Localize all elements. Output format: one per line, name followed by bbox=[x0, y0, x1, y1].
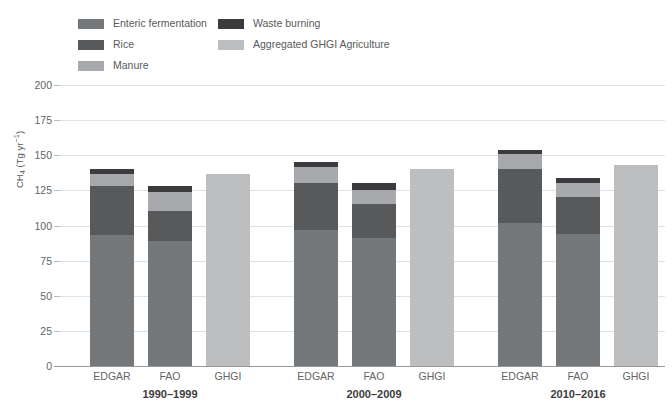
bar-segment-aggregated-ghgi-agriculture bbox=[206, 174, 250, 366]
bar-segment-rice bbox=[90, 186, 134, 235]
bar-segment-aggregated-ghgi-agriculture bbox=[614, 165, 658, 366]
x-axis-labels: EDGARFAOGHGIEDGARFAOGHGIEDGARFAOGHGI1990… bbox=[0, 370, 672, 415]
gridline bbox=[60, 85, 665, 86]
y-axis-tick-label: 175 bbox=[14, 114, 52, 126]
bar-segment-aggregated-ghgi-agriculture bbox=[410, 169, 454, 366]
bar-segment-manure bbox=[498, 154, 542, 169]
y-axis-tick-mark bbox=[54, 226, 60, 227]
bar-segment-enteric-fermentation bbox=[90, 235, 134, 366]
x-axis-baseline bbox=[60, 366, 665, 367]
bar-segment-rice bbox=[148, 211, 192, 241]
bar-segment-enteric-fermentation bbox=[294, 230, 338, 366]
bar-edgar-1[interactable] bbox=[90, 169, 134, 366]
y-axis-tick-label: 125 bbox=[14, 184, 52, 196]
y-axis-tick-label: 75 bbox=[14, 255, 52, 267]
bar-fao-3[interactable] bbox=[556, 178, 600, 366]
plot-area bbox=[60, 85, 665, 366]
bar-segment-rice bbox=[294, 183, 338, 229]
bar-segment-manure bbox=[352, 190, 396, 204]
bar-segment-enteric-fermentation bbox=[148, 241, 192, 366]
bar-segment-rice bbox=[352, 204, 396, 238]
bar-ghgi-3[interactable] bbox=[614, 165, 658, 366]
x-axis-group-label: 2000–2009 bbox=[299, 388, 449, 400]
y-axis-tick-mark bbox=[54, 155, 60, 156]
gridline bbox=[60, 120, 665, 121]
gridline bbox=[60, 155, 665, 156]
y-axis-tick-mark bbox=[54, 190, 60, 191]
y-axis-tick-label: 25 bbox=[14, 325, 52, 337]
y-axis-tick-mark bbox=[54, 331, 60, 332]
y-axis-tick-label: 200 bbox=[14, 79, 52, 91]
bar-segment-manure bbox=[90, 174, 134, 187]
x-axis-tick-label-ghgi: GHGI bbox=[193, 370, 263, 382]
y-axis-tick-label: 100 bbox=[14, 220, 52, 232]
bar-segment-rice bbox=[498, 169, 542, 222]
y-axis-tick-mark bbox=[54, 85, 60, 86]
x-axis-group-label: 2010–2016 bbox=[503, 388, 653, 400]
y-axis-tick-mark bbox=[54, 366, 60, 367]
y-axis-tick-label: 50 bbox=[14, 290, 52, 302]
bar-segment-rice bbox=[556, 197, 600, 234]
chart-plot-wrapper: CH4 (Tg yr−1) 0255075100125150175200 EDG… bbox=[0, 0, 672, 417]
bar-segment-enteric-fermentation bbox=[556, 234, 600, 366]
y-axis-tick-label: 150 bbox=[14, 149, 52, 161]
bar-ghgi-1[interactable] bbox=[206, 174, 250, 366]
bar-segment-enteric-fermentation bbox=[498, 223, 542, 366]
bar-segment-enteric-fermentation bbox=[352, 238, 396, 366]
y-axis-tick-mark bbox=[54, 261, 60, 262]
bar-segment-manure bbox=[556, 183, 600, 197]
y-axis-tick-mark bbox=[54, 296, 60, 297]
x-axis-tick-label-ghgi: GHGI bbox=[601, 370, 671, 382]
bar-fao-1[interactable] bbox=[148, 186, 192, 366]
bar-edgar-3[interactable] bbox=[498, 150, 542, 366]
x-axis-tick-label-ghgi: GHGI bbox=[397, 370, 467, 382]
bar-edgar-2[interactable] bbox=[294, 162, 338, 366]
bar-segment-manure bbox=[148, 192, 192, 212]
bar-segment-waste-burning bbox=[352, 183, 396, 190]
bar-fao-2[interactable] bbox=[352, 183, 396, 366]
bar-segment-manure bbox=[294, 167, 338, 184]
x-axis-group-label: 1990–1999 bbox=[95, 388, 245, 400]
bar-ghgi-2[interactable] bbox=[410, 169, 454, 366]
y-axis-tick-mark bbox=[54, 120, 60, 121]
